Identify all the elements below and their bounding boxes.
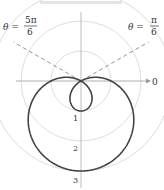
dashed-line-1 xyxy=(81,42,149,81)
polar-plot: 0 1 2 3 θ = 5π 6 θ = π 6 xyxy=(0,0,164,190)
polar-axis-arrow-icon xyxy=(146,79,151,84)
svg-text:θ =: θ = xyxy=(128,22,144,32)
polar-axis-label: 0 xyxy=(152,77,158,87)
svg-text:5π: 5π xyxy=(25,15,37,25)
dashed-line-0 xyxy=(13,42,81,81)
radial-label-2: 2 xyxy=(73,144,78,153)
svg-text:6: 6 xyxy=(151,27,157,37)
radial-label-1: 1 xyxy=(73,114,78,123)
svg-text:π: π xyxy=(151,15,157,25)
svg-text:6: 6 xyxy=(27,27,33,37)
radial-label-3: 3 xyxy=(73,176,78,185)
annotation-5pi-6: θ = 5π 6 xyxy=(3,15,37,37)
annotation-pi-6: θ = π 6 xyxy=(128,15,159,37)
svg-text:θ =: θ = xyxy=(3,22,19,32)
